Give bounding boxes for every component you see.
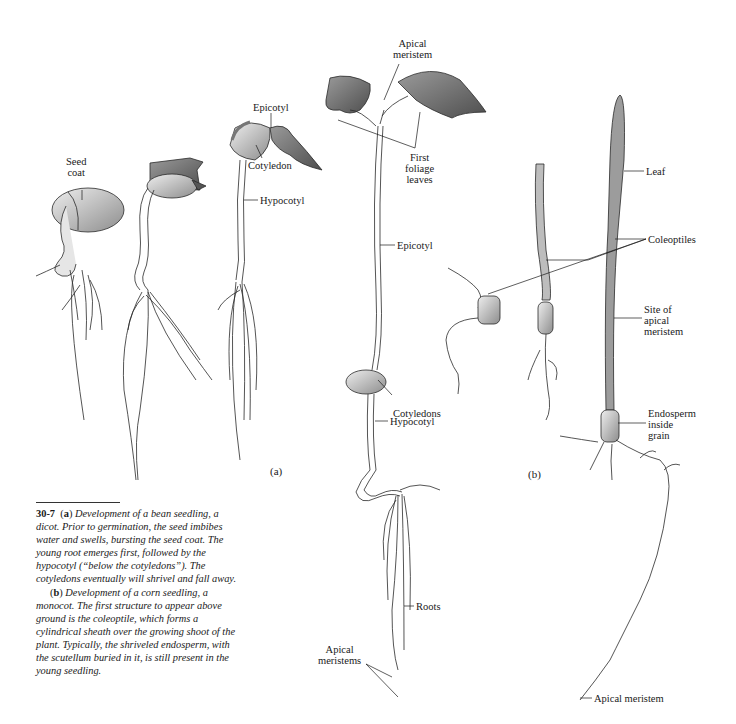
label-leaf: Leaf (646, 166, 665, 177)
label-hypocotyl-top: Hypocotyl (260, 195, 304, 206)
tag-letter: a (64, 508, 69, 519)
panel-label-a: (a) (270, 465, 282, 477)
label-coleoptiles: Coleoptiles (648, 234, 696, 245)
figure-number: 30-7 (36, 508, 55, 519)
label-line: leaves (405, 174, 434, 185)
bean-seedling-stage-2 (123, 158, 212, 480)
label-line: Site of (644, 304, 683, 315)
label-line: apical (644, 315, 683, 326)
label-line: Seed (66, 156, 86, 167)
label-seed-coat: Seed coat (66, 156, 86, 178)
figure-caption: 30-7 (a) Development of a bean seedling,… (36, 502, 241, 677)
label-hypocotyl-lower: Hypocotyl (390, 416, 434, 427)
label-site-of-apical-meristem: Site of apical meristem (644, 304, 683, 337)
label-apical-meristem-bottom: Apical meristem (594, 693, 664, 704)
label-apical-meristem-top: Apical meristem (393, 38, 432, 60)
label-line: meristem (644, 326, 683, 337)
label-apical-meristems: Apical meristems (318, 644, 361, 666)
caption-part-b: (b) Development of a corn seedling, a mo… (36, 586, 241, 678)
caption-tag-a: (a) (60, 508, 72, 519)
label-epicotyl-top: Epicotyl (253, 102, 289, 113)
corn-seedling-stage-3 (560, 95, 680, 700)
label-line: Endosperm (648, 408, 696, 419)
label-line: First (405, 152, 434, 163)
label-line: Apical (393, 38, 432, 49)
label-endosperm-inside-grain: Endosperm inside grain (648, 408, 696, 441)
caption-part-a: 30-7 (a) Development of a bean seedling,… (36, 507, 241, 586)
bean-seedling-stage-3 (218, 122, 322, 460)
label-roots: Roots (416, 601, 441, 612)
label-first-foliage-leaves: First foliage leaves (405, 152, 434, 185)
caption-tag-b: (b) (50, 587, 63, 598)
corn-seedling-stage-2 (528, 164, 557, 420)
tag-letter: b (53, 587, 59, 598)
label-line: foliage (405, 163, 434, 174)
panel-label-b: (b) (528, 468, 541, 480)
caption-rule (36, 502, 120, 503)
label-line: Apical (318, 644, 361, 655)
label-line: grain (648, 430, 696, 441)
caption-text-b: Development of a corn seedling, a monoco… (36, 587, 235, 677)
corn-seedling-stage-1 (446, 268, 500, 394)
label-line: inside (648, 419, 696, 430)
label-line: meristem (393, 49, 432, 60)
label-line: coat (66, 167, 86, 178)
bean-seedling-stage-1 (36, 188, 124, 420)
label-line: meristems (318, 655, 361, 666)
caption-text-a: Development of a bean seedling, a dicot.… (36, 508, 236, 584)
label-cotyledon: Cotyledon (248, 160, 292, 171)
label-epicotyl-mid: Epicotyl (397, 240, 433, 251)
